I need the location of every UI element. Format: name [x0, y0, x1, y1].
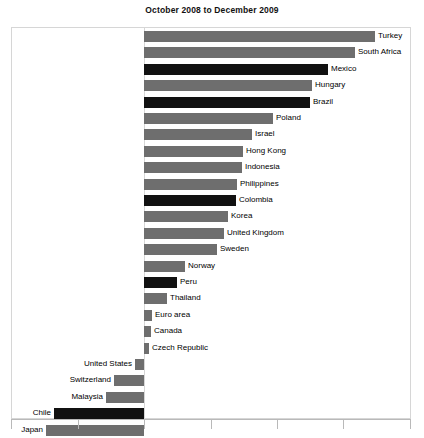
bar[interactable]	[144, 343, 149, 354]
bar-row[interactable]: Canada	[11, 324, 411, 340]
bar[interactable]	[144, 113, 273, 124]
x-axis-tick	[11, 419, 12, 429]
bar-row[interactable]: Euro area	[11, 307, 411, 323]
bar[interactable]	[144, 31, 375, 42]
x-axis-tick	[410, 419, 411, 429]
bar-row[interactable]: South Africa	[11, 45, 411, 61]
bar[interactable]	[144, 277, 177, 288]
bar-label: South Africa	[358, 46, 401, 58]
bar-row[interactable]: United States	[11, 357, 411, 373]
bar-row[interactable]: Poland	[11, 111, 411, 127]
bar-label: Canada	[154, 325, 182, 337]
x-axis-tick	[343, 419, 344, 429]
bar[interactable]	[144, 310, 152, 321]
bar-label: Turkey	[378, 30, 402, 42]
bar-row[interactable]: United Kingdom	[11, 225, 411, 241]
bar-label: Thailand	[170, 292, 201, 304]
bar-label: Norway	[188, 260, 215, 272]
bar[interactable]	[144, 97, 310, 108]
bar-row[interactable]: Hong Kong	[11, 143, 411, 159]
bar-label: Indonesia	[245, 161, 280, 173]
bar-label: Euro area	[155, 309, 190, 321]
bar[interactable]	[144, 80, 312, 91]
bar-label: Philippines	[240, 178, 279, 190]
bar-row[interactable]: Malaysia	[11, 389, 411, 405]
bar[interactable]	[144, 146, 243, 157]
x-axis-tick	[211, 419, 212, 429]
bar[interactable]	[144, 162, 242, 173]
bar-label: Brazil	[313, 96, 333, 108]
bar-label: Czech Republic	[152, 342, 208, 354]
bar-label: Colombia	[239, 194, 273, 206]
bar[interactable]	[144, 293, 167, 304]
bar[interactable]	[135, 359, 144, 370]
bar[interactable]	[114, 375, 144, 386]
x-axis-tick	[78, 419, 79, 429]
bar-row[interactable]: Korea	[11, 209, 411, 225]
x-axis-tick	[277, 419, 278, 429]
chart-title: October 2008 to December 2009	[0, 5, 424, 15]
bar-label: Hong Kong	[246, 145, 286, 157]
x-axis-tick	[144, 419, 145, 429]
bars-layer: TurkeySouth AfricaMexicoHungaryBrazilPol…	[11, 27, 411, 419]
bar[interactable]	[144, 326, 151, 337]
bar-label: Sweden	[220, 243, 249, 255]
bar[interactable]	[144, 228, 224, 239]
bar[interactable]	[46, 425, 144, 436]
bar[interactable]	[144, 64, 328, 75]
bar-row[interactable]: Thailand	[11, 291, 411, 307]
bar[interactable]	[144, 129, 252, 140]
bar-row[interactable]: Hungary	[11, 78, 411, 94]
bar[interactable]	[144, 244, 217, 255]
bar-row[interactable]: Norway	[11, 258, 411, 274]
bar-label: Hungary	[315, 79, 345, 91]
bar-row[interactable]: Mexico	[11, 61, 411, 77]
bar-label: Israel	[255, 128, 275, 140]
bar-row[interactable]: Israel	[11, 127, 411, 143]
bar-row[interactable]: Switzerland	[11, 373, 411, 389]
bar-label: Poland	[276, 112, 301, 124]
bar-label: Mexico	[331, 63, 356, 75]
bar-label: Korea	[231, 210, 252, 222]
bar-label: Chile	[33, 407, 51, 419]
bar-row[interactable]: Sweden	[11, 242, 411, 258]
bar[interactable]	[144, 47, 355, 58]
bar-row[interactable]: Peru	[11, 275, 411, 291]
bar-label: Japan	[21, 424, 43, 436]
bar-label: Switzerland	[70, 374, 111, 386]
bar-label: Peru	[180, 276, 197, 288]
bar-label: Malaysia	[71, 391, 103, 403]
bar-row[interactable]: Colombia	[11, 193, 411, 209]
bar[interactable]	[144, 179, 237, 190]
bar-row[interactable]: Turkey	[11, 29, 411, 45]
bar-row[interactable]: Philippines	[11, 176, 411, 192]
bar[interactable]	[144, 211, 228, 222]
bar-label: United Kingdom	[227, 227, 284, 239]
bar[interactable]	[144, 261, 185, 272]
bar[interactable]	[106, 392, 144, 403]
bar[interactable]	[144, 195, 236, 206]
bar-row[interactable]: Brazil	[11, 94, 411, 110]
bar[interactable]	[54, 408, 144, 419]
bar-label: United States	[84, 358, 132, 370]
bar-row[interactable]: Indonesia	[11, 160, 411, 176]
bar-row[interactable]: Czech Republic	[11, 340, 411, 356]
